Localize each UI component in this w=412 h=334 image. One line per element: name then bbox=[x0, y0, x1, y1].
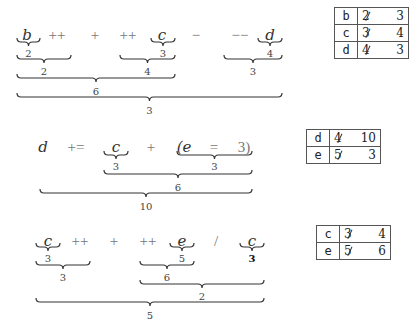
state-table-1: b23c34d43 bbox=[334, 7, 409, 59]
state-row: b23 bbox=[335, 8, 409, 25]
state-row: e53 bbox=[307, 147, 381, 164]
brace-value-label: 3 bbox=[60, 273, 66, 283]
new-value: 3 bbox=[382, 42, 409, 59]
variable-name: d bbox=[307, 130, 330, 147]
brace-value-label: 3 bbox=[45, 254, 51, 264]
new-value: 6 bbox=[364, 243, 391, 260]
brace-value-label: 2 bbox=[199, 292, 205, 302]
old-value: 3 bbox=[362, 26, 370, 40]
brace-value-label: 3 bbox=[249, 254, 256, 264]
variable-name: c bbox=[335, 25, 358, 42]
state-row: e56 bbox=[317, 243, 391, 260]
state-row: d43 bbox=[335, 42, 409, 59]
old-value: 4 bbox=[362, 43, 370, 57]
old-value-struck: 5 bbox=[340, 243, 365, 260]
variable-token: c bbox=[44, 234, 52, 249]
new-value: 10 bbox=[354, 130, 381, 147]
brace-value-label: 5 bbox=[147, 311, 153, 321]
variable-name: e bbox=[317, 243, 340, 260]
old-value-struck: 4 bbox=[330, 130, 355, 147]
variable-name: d bbox=[335, 42, 358, 59]
old-value-struck: 3 bbox=[358, 25, 383, 42]
operator-token: / bbox=[214, 234, 218, 249]
old-value: 5 bbox=[344, 244, 352, 258]
old-value-struck: 5 bbox=[330, 147, 355, 164]
variable-token: c bbox=[248, 234, 256, 249]
state-row: d410 bbox=[307, 130, 381, 147]
new-value: 4 bbox=[364, 226, 391, 243]
old-value-struck: 2 bbox=[358, 8, 383, 25]
state-row: c34 bbox=[317, 226, 391, 243]
old-value: 4 bbox=[334, 131, 342, 145]
underbrace bbox=[36, 298, 264, 306]
new-value: 3 bbox=[354, 147, 381, 164]
operator-token: + bbox=[110, 234, 118, 249]
brace-value-label: 5 bbox=[179, 254, 185, 264]
variable-name: c bbox=[317, 226, 340, 243]
new-value: 3 bbox=[382, 8, 409, 25]
variable-token: e bbox=[178, 234, 187, 249]
old-value-struck: 3 bbox=[340, 226, 365, 243]
variable-name: b bbox=[335, 8, 358, 25]
operator-token: ++ bbox=[72, 234, 89, 249]
operator-token: ++ bbox=[140, 234, 157, 249]
old-value: 2 bbox=[362, 9, 370, 23]
old-value-struck: 4 bbox=[358, 42, 383, 59]
brace-value-label: 6 bbox=[164, 273, 170, 283]
variable-name: e bbox=[307, 147, 330, 164]
state-table-2: d410e53 bbox=[306, 129, 381, 164]
underbrace bbox=[140, 280, 264, 288]
state-table-3: c34e56 bbox=[316, 225, 391, 260]
old-value: 5 bbox=[334, 148, 342, 162]
new-value: 4 bbox=[382, 25, 409, 42]
old-value: 3 bbox=[344, 227, 352, 241]
underbrace bbox=[140, 261, 194, 269]
state-row: c34 bbox=[335, 25, 409, 42]
